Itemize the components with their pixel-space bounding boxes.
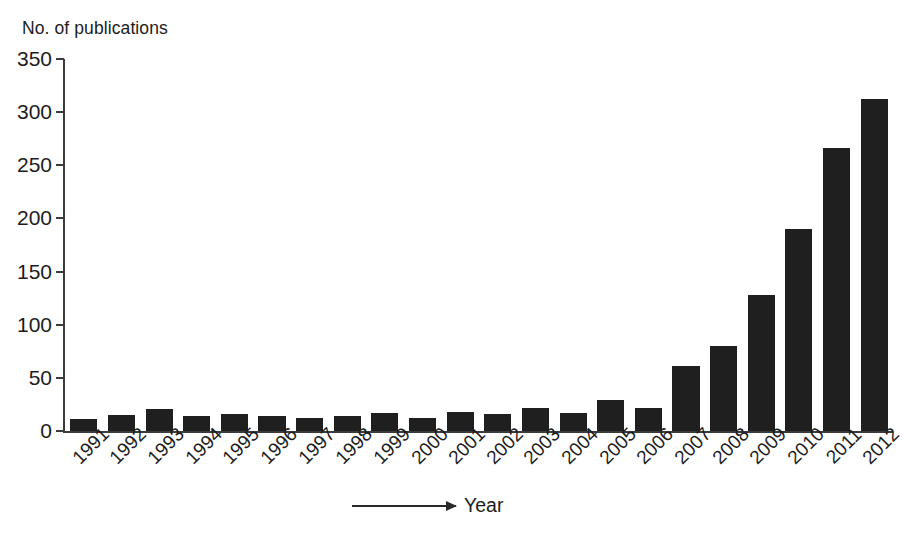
y-axis-tick-label: 100 <box>0 314 52 335</box>
bar-slot <box>328 59 366 431</box>
x-axis-label-slot: 1999 <box>366 433 404 493</box>
bar[interactable] <box>823 148 850 431</box>
bar-slot <box>140 59 178 431</box>
x-axis-label-slot: 1991 <box>65 433 103 493</box>
bar-slot <box>855 59 893 431</box>
x-axis-label-slot: 2010 <box>780 433 818 493</box>
bar[interactable] <box>597 400 624 431</box>
y-axis-tick <box>56 271 64 273</box>
x-axis-label-slot: 1998 <box>328 433 366 493</box>
x-axis-label-slot: 2009 <box>742 433 780 493</box>
y-axis-tick-label: 0 <box>0 420 52 441</box>
bar-slot <box>592 59 630 431</box>
bar-slot <box>517 59 555 431</box>
y-axis-tick <box>56 58 64 60</box>
x-axis-label-slot: 2006 <box>630 433 668 493</box>
x-axis-label-slot: 2007 <box>667 433 705 493</box>
bar-slot <box>479 59 517 431</box>
bar-slot <box>554 59 592 431</box>
bar-slot <box>253 59 291 431</box>
bar-slot <box>65 59 103 431</box>
bar-slot <box>178 59 216 431</box>
bar-slot <box>630 59 668 431</box>
y-axis-tick <box>56 111 64 113</box>
publications-bar-chart: No. of publications 05010015020025030035… <box>0 0 902 537</box>
bar-slot <box>103 59 141 431</box>
x-axis-label-slot: 1995 <box>216 433 254 493</box>
x-axis-label-slot: 2012 <box>855 433 893 493</box>
x-axis-title-group: Year <box>352 494 503 517</box>
bar-slot <box>667 59 705 431</box>
x-axis-label-slot: 1997 <box>291 433 329 493</box>
y-axis-tick <box>56 164 64 166</box>
bar-slot <box>404 59 442 431</box>
bar-slot <box>441 59 479 431</box>
x-axis-title: Year <box>464 494 503 517</box>
bar[interactable] <box>748 295 775 431</box>
x-axis-label-slot: 1993 <box>140 433 178 493</box>
x-axis-label-slot: 2003 <box>517 433 555 493</box>
y-axis-tick-label: 150 <box>0 261 52 282</box>
y-axis-tick-label: 250 <box>0 154 52 175</box>
bar[interactable] <box>861 99 888 431</box>
arrow-right-icon <box>352 505 456 507</box>
x-axis-label-slot: 1992 <box>103 433 141 493</box>
y-axis-tick <box>56 217 64 219</box>
bar-slot <box>705 59 743 431</box>
y-axis-title: No. of publications <box>22 18 168 39</box>
x-axis-label-slot: 1996 <box>253 433 291 493</box>
x-axis-label-slot: 2005 <box>592 433 630 493</box>
x-axis-label-slot: 2004 <box>554 433 592 493</box>
y-axis-tick-label: 50 <box>0 367 52 388</box>
bar-slot <box>818 59 856 431</box>
x-axis-label-slot: 2001 <box>441 433 479 493</box>
y-axis-tick <box>56 324 64 326</box>
y-axis-tick <box>56 430 64 432</box>
x-axis-label-slot: 1994 <box>178 433 216 493</box>
bar[interactable] <box>672 366 699 431</box>
y-axis-tick <box>56 377 64 379</box>
bar-slot <box>216 59 254 431</box>
y-axis-tick-label: 300 <box>0 101 52 122</box>
bar-slot <box>366 59 404 431</box>
bar-slot <box>742 59 780 431</box>
bar[interactable] <box>785 229 812 431</box>
y-axis-tick-label: 350 <box>0 48 52 69</box>
x-axis-label-slot: 2002 <box>479 433 517 493</box>
x-axis-label-slot: 2000 <box>404 433 442 493</box>
bar[interactable] <box>710 346 737 431</box>
x-axis-tick-labels: 1991199219931994199519961997199819992000… <box>65 433 893 493</box>
y-axis-tick-label: 200 <box>0 207 52 228</box>
x-axis-label-slot: 2008 <box>705 433 743 493</box>
bar-slot <box>291 59 329 431</box>
bar-series <box>65 59 893 431</box>
bar-slot <box>780 59 818 431</box>
x-axis-label-slot: 2011 <box>818 433 856 493</box>
